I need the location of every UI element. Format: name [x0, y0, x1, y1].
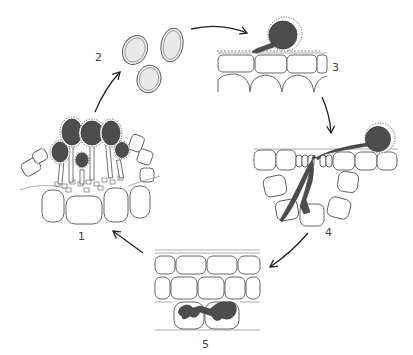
arrow-4-to-5: [270, 233, 308, 267]
stage-5-colonization: [155, 250, 260, 330]
stage-label-2: 2: [95, 51, 102, 64]
stage-label-3: 3: [332, 61, 339, 74]
stage-label-5: 5: [202, 338, 209, 351]
stage-4-penetration: [254, 123, 398, 226]
arrow-3-to-4: [322, 97, 331, 133]
stage-1-sporangia: [20, 117, 160, 224]
arrow-1-to-2: [95, 72, 120, 112]
stage-label-4: 4: [325, 226, 332, 239]
stage-label-1: 1: [78, 230, 85, 243]
life-cycle-diagram: 2 3: [0, 0, 413, 355]
arrow-2-to-3: [191, 26, 247, 33]
stage-2-spores: [118, 26, 186, 95]
arrow-5-to-1: [113, 231, 143, 253]
